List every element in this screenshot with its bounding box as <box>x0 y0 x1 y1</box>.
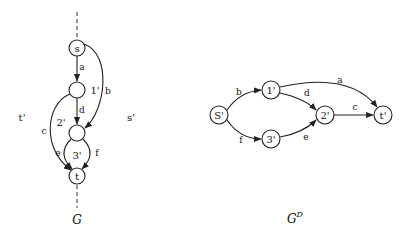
node-t-label: t <box>75 171 79 182</box>
node-s-label: s <box>74 43 79 54</box>
node-2 <box>69 125 85 141</box>
caption-g: G <box>72 213 82 227</box>
caption-gd-base: G <box>287 212 297 226</box>
edge-c <box>50 94 71 170</box>
diagram-canvas: s 1' 2' 3' t a b c d e f t' s' G S' 1' 3… <box>0 0 412 239</box>
edge-e-dual <box>280 120 316 137</box>
edge-c-label: c <box>41 126 46 136</box>
edge-d-dual <box>280 93 316 110</box>
edge-a-dual-label: a <box>337 75 343 85</box>
edge-b-dual <box>227 90 261 110</box>
node-1-dual-label: 1' <box>266 85 275 96</box>
edge-f-label: f <box>95 148 99 158</box>
caption-gd: GD <box>287 210 304 227</box>
node-1-label: 1' <box>90 85 99 96</box>
node-2-label: 2' <box>56 117 65 128</box>
edge-f-dual-label: f <box>239 135 243 145</box>
edge-b-dual-label: b <box>236 87 242 97</box>
edge-f <box>82 139 90 169</box>
edge-d-dual-label: d <box>304 88 310 98</box>
edge-a-label: a <box>79 62 85 72</box>
edge-d-label: d <box>79 105 85 115</box>
caption-gd-sup: D <box>296 210 304 219</box>
node-1 <box>69 82 85 98</box>
graph-gd: S' 1' 3' 2' t' a b c d e f GD <box>210 75 392 226</box>
node-3-dual-label: 3' <box>266 134 275 145</box>
edge-b-label: b <box>105 86 111 96</box>
edge-a-dual <box>280 82 377 107</box>
graph-g: s 1' 2' 3' t a b c d e f t' s' G <box>19 12 135 227</box>
edge-e-label: e <box>55 148 60 158</box>
face-t-prime-label: t' <box>19 112 26 123</box>
edge-f-dual <box>227 120 261 139</box>
node-2-dual-label: 2' <box>320 110 329 121</box>
face-s-prime-label: s' <box>127 112 135 123</box>
face-3-label: 3' <box>72 150 81 161</box>
node-s-dual-label: S' <box>214 110 224 121</box>
edge-e-dual-label: e <box>303 132 308 142</box>
edge-c-dual-label: c <box>352 102 357 112</box>
node-t-dual-label: t' <box>380 110 387 121</box>
